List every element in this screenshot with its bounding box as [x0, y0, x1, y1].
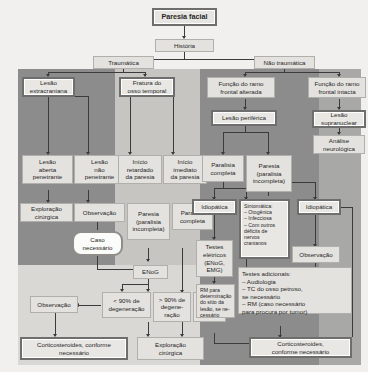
connector-idio2-observacao3: [315, 215, 316, 246]
connector-enog-bus: [122, 284, 148, 285]
connector-extracraniana-stem: [48, 96, 49, 153]
node-lesao-periferica[interactable]: Lesão periférica: [211, 110, 277, 126]
node-exploracao-cirurgica-2[interactable]: Exploração cirúrgica: [137, 337, 204, 360]
node-lesao-aberta-penetrante[interactable]: Lesão aberta penetrante: [22, 155, 73, 184]
node-historia[interactable]: História: [155, 39, 214, 52]
node-root[interactable]: Paresia facial: [152, 8, 217, 26]
node-inicio-imediato[interactable]: Início imediato da paresia: [163, 155, 207, 184]
node-nao-traumatica[interactable]: Não traumática: [254, 56, 315, 69]
node-exploracao-cirurgica-1[interactable]: Exploração cirúrgica: [20, 203, 73, 222]
node-funcao-frontal-intacta[interactable]: Função do ramo frontal intacta: [308, 77, 366, 98]
node-paralisia-completa-centro[interactable]: Paralisia completa: [202, 155, 244, 182]
node-observacao-2[interactable]: Observação: [30, 296, 78, 313]
connector-periferica-r: [268, 132, 269, 153]
node-idiopatica-2[interactable]: Idiopática: [297, 199, 341, 215]
connector-menos90-observacao: [76, 305, 101, 306]
node-fratura-osso-temporal[interactable]: Fratura do osso temporal: [119, 77, 175, 97]
connector-caso-down: [97, 256, 98, 269]
connector-naotraum-bus: [245, 72, 339, 73]
node-menos-90-degeneracao[interactable]: < 90% de degeneração: [102, 292, 151, 318]
node-paresia-incompleta-centro[interactable]: Paresia (paralisia incompleta): [246, 155, 292, 192]
connector-rm-down: [214, 333, 215, 343]
node-rm-determinacao[interactable]: RM para determinação do sítio da lesão, …: [196, 284, 235, 318]
node-corticosteroides-direita[interactable]: Corticosteroides, conforme necessário: [249, 337, 352, 358]
node-observacao-1[interactable]: Observação: [74, 203, 125, 222]
connector-paresiacentro-stem: [268, 192, 269, 196]
node-funcao-frontal-alterada[interactable]: Função do ramo frontal alterada: [207, 77, 275, 98]
node-analise-neurologica[interactable]: Análise neurológica: [313, 135, 365, 154]
connector-periferica-bus: [223, 132, 268, 133]
node-observacao-3[interactable]: Observação: [292, 246, 340, 263]
connector-idio2-rightdown: [352, 207, 353, 337]
flowchart-canvas: Paresia facial História Traumática Não t…: [0, 0, 368, 372]
node-enog[interactable]: ENoG: [133, 265, 168, 279]
node-sintomatica[interactable]: Sintomática: – Otogênica – Infecciosa – …: [239, 199, 290, 259]
node-testes-eletricos[interactable]: Testes elétricos (ENoG, EMG): [196, 240, 233, 277]
node-lesao-supranuclear[interactable]: Lesão supranuclear: [312, 110, 366, 128]
connector-idio1-testes: [214, 215, 215, 239]
connector-paralisiaesq-down: [182, 248, 183, 292]
connector-fratura-r: [173, 96, 174, 153]
node-lesao-extracraniana[interactable]: Lesão extracraniana: [22, 77, 75, 97]
node-idiopatica-1[interactable]: Idiopática: [192, 199, 237, 215]
node-inicio-retardado[interactable]: Início retardado da paresia: [118, 155, 162, 184]
connector-sintomatica-adicionais: [246, 259, 247, 267]
node-corticosteroides-esquerda[interactable]: Corticosteroides, conforme necessário: [20, 337, 128, 360]
connector-extracraniana-stem2: [88, 96, 89, 153]
node-paresia-incompleta-esq[interactable]: Paresia (paralisia incompleta): [127, 203, 170, 240]
connector-observacao-caso: [97, 222, 98, 230]
node-traumatica[interactable]: Traumática: [93, 56, 154, 69]
connector-fratura-l: [130, 96, 131, 153]
node-mais-90-degeneracao[interactable]: > 90% de degene- ração: [153, 292, 191, 322]
connector-paralisiacentro-bus: [214, 188, 246, 189]
arrow-paresiaesq-enog: [146, 259, 150, 262]
node-testes-adicionais[interactable]: Testes adicionais: – Audiologia – TC do …: [238, 267, 352, 314]
node-caso-necessario[interactable]: Caso necessário: [72, 231, 123, 256]
connector-observacao2-cortico: [55, 313, 56, 336]
connector-periferica-l: [223, 132, 224, 153]
connector-historia-bus: [184, 52, 185, 59]
connector-caso-enog: [97, 269, 137, 270]
connector-traumatica-bus: [48, 72, 145, 73]
